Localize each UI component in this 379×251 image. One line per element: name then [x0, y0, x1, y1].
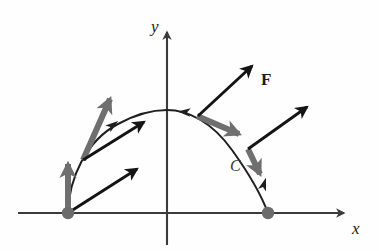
direction-marker-right-end	[258, 177, 270, 192]
vector-field-line-integral-diagram	[0, 0, 379, 251]
y-axis-label: y	[151, 18, 159, 35]
x-axis-label: x	[352, 220, 360, 237]
figure-root: y x F C	[0, 0, 379, 251]
field-vector-at-right-descent	[248, 107, 307, 149]
curve-label-C: C	[230, 158, 241, 174]
field-vector-F-main	[198, 66, 252, 116]
field-vector-at-start	[68, 169, 137, 213]
vector-field-label-F: F	[261, 71, 271, 88]
tangent-at-apex-descent	[197, 116, 239, 134]
start-endpoint-dot	[62, 207, 74, 219]
field-vectors-group	[68, 66, 307, 213]
direction-marker-apex	[177, 107, 191, 116]
tangent-at-right-descent	[248, 149, 260, 174]
end-endpoint-dot	[262, 207, 274, 219]
